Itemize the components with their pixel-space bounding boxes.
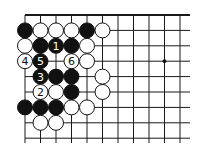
white-stone-move-2: 2 <box>33 85 48 100</box>
white-stone-icon <box>80 38 95 53</box>
white-stone-icon <box>95 69 110 84</box>
white-stone <box>95 69 110 84</box>
move-number-label: 6 <box>68 55 75 68</box>
black-stone-icon <box>64 38 79 53</box>
white-stone-icon <box>33 115 48 130</box>
black-stone-icon <box>18 23 33 38</box>
white-stone <box>64 100 79 115</box>
move-number-label: 2 <box>37 86 44 99</box>
black-stone-icon <box>49 100 64 115</box>
white-stone <box>49 85 64 100</box>
star-points <box>163 59 167 63</box>
white-stone <box>33 23 48 38</box>
move-number-label: 4 <box>22 55 29 68</box>
black-stone <box>64 69 79 84</box>
star-point <box>163 59 167 63</box>
move-number-label: 3 <box>37 71 44 84</box>
black-stone-move-3: 3 <box>33 69 48 84</box>
white-stone <box>95 85 110 100</box>
black-stone-icon <box>33 38 48 53</box>
move-number-label: 1 <box>53 40 60 53</box>
black-stone-icon <box>49 69 64 84</box>
white-stone-icon <box>95 23 110 38</box>
black-stone <box>33 38 48 53</box>
black-stone-icon <box>64 85 79 100</box>
white-stone-icon <box>64 100 79 115</box>
move-number-label: 5 <box>37 55 44 68</box>
black-stone <box>18 100 33 115</box>
black-stone-icon <box>18 100 33 115</box>
white-stone-icon <box>80 54 95 69</box>
white-stone-move-4: 4 <box>18 54 33 69</box>
go-board: 145632 <box>0 0 205 153</box>
white-stone-icon <box>80 100 95 115</box>
white-stone <box>18 38 33 53</box>
white-stone-icon <box>64 23 79 38</box>
black-stone <box>18 23 33 38</box>
white-stone-icon <box>95 85 110 100</box>
white-stone <box>33 115 48 130</box>
black-stone-move-5: 5 <box>33 54 48 69</box>
white-stone <box>80 100 95 115</box>
white-stone <box>49 115 64 130</box>
white-stone-move-6: 6 <box>64 54 79 69</box>
black-stone <box>33 100 48 115</box>
white-stone-icon <box>49 85 64 100</box>
white-stone <box>64 23 79 38</box>
white-stone <box>95 23 110 38</box>
black-stone-move-1: 1 <box>49 38 64 53</box>
white-stone <box>80 54 95 69</box>
black-stone <box>49 100 64 115</box>
go-board-diagram: 145632 <box>0 0 205 153</box>
white-stone-icon <box>49 115 64 130</box>
white-stone-icon <box>33 23 48 38</box>
black-stone <box>49 69 64 84</box>
white-stone <box>80 38 95 53</box>
black-stone-icon <box>80 23 95 38</box>
white-stone-icon <box>18 38 33 53</box>
black-stone-icon <box>33 100 48 115</box>
white-stone <box>49 23 64 38</box>
black-stone-icon <box>64 69 79 84</box>
black-stone <box>64 85 79 100</box>
black-stone <box>80 23 95 38</box>
white-stone-icon <box>49 23 64 38</box>
black-stone <box>64 38 79 53</box>
